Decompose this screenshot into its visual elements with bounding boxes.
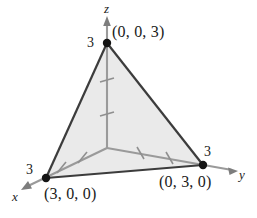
y-axis-label: y	[239, 168, 245, 181]
x-intercept-value: 3	[26, 163, 33, 177]
y-intercept-value: 3	[204, 145, 211, 159]
y-axis-arrowhead	[228, 168, 238, 176]
z-intercept-value: 3	[87, 36, 94, 50]
point-label-x-vertex: (3, 0, 0)	[44, 186, 96, 202]
z-axis-arrowhead	[103, 16, 111, 26]
point-label-z-vertex: (0, 0, 3)	[112, 24, 164, 40]
z-axis-label: z	[104, 2, 109, 15]
plane-triangle-fill	[46, 43, 203, 178]
vertex-dot-y	[199, 161, 207, 169]
vertex-dot-z	[103, 39, 111, 47]
point-label-y-vertex: (0, 3, 0)	[159, 174, 211, 190]
coordinate-plane-figure: z y x (0, 0, 3) (3, 0, 0) (0, 3, 0) 3 3 …	[0, 0, 257, 218]
vertex-dot-x	[42, 174, 50, 182]
x-axis-label: x	[12, 190, 18, 203]
x-axis-arrowhead	[21, 181, 32, 190]
